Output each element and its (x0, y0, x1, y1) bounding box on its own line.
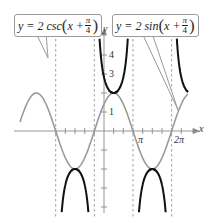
asymptote-lines (56, 34, 172, 217)
csc-curve-branch (62, 169, 89, 212)
close-paren: ) (92, 19, 98, 33)
csc-callout: y = 2 csc ( x + π4 ) (14, 14, 102, 37)
x-tick-label-2pi: 2π (174, 134, 184, 145)
y-tick-label-4: 4 (109, 49, 114, 60)
csc-eq-prefix: y = 2 csc (18, 19, 62, 33)
y-tick-label-1: 1 (109, 106, 114, 117)
sin-callout-tail (142, 33, 178, 110)
y-tick-label-3: 3 (109, 68, 114, 79)
close-paren: ) (189, 19, 195, 33)
csc-curve-branch (139, 169, 166, 212)
sin-x-plus: x + (164, 19, 180, 33)
pi-over-4: π4 (85, 16, 92, 35)
y-axis-label: y (103, 23, 107, 34)
x-axis-label: x (199, 123, 203, 134)
sin-eq-prefix: y = 2 sin (116, 19, 158, 33)
csc-x-plus: x + (67, 19, 83, 33)
x-tick-label-pi: π (138, 134, 143, 145)
sin-callout: y = 2 sin ( x + π4 ) (112, 14, 199, 37)
csc-curve-branch (177, 39, 188, 92)
pi-over-4: π4 (182, 16, 189, 35)
